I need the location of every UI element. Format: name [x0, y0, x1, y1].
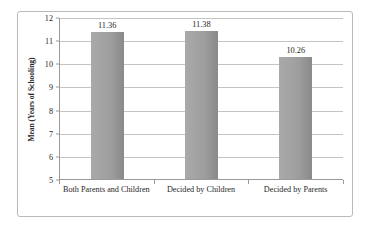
bar-slot: 11.38	[154, 18, 248, 179]
y-axis-tick-label: 6	[49, 152, 53, 161]
y-axis-title-text: Mean (Years of Schooling)	[27, 57, 36, 141]
plot-area: 11.3611.3810.26	[59, 18, 343, 180]
bar-value-label: 10.26	[286, 46, 305, 55]
bars-group: 11.3611.3810.26	[60, 18, 343, 179]
plot-wrapper: 12111098765 11.3611.3810.26 Both Parents…	[38, 18, 343, 214]
x-axis-tick-mark	[343, 180, 344, 184]
y-axis-title: Mean (Years of Schooling)	[24, 12, 38, 187]
y-axis-tick-label: 12	[45, 14, 53, 23]
x-axis-tick-label: Both Parents and Children	[59, 185, 154, 196]
x-axis-tick-mark	[154, 180, 155, 184]
y-axis-tick-labels: 12111098765	[38, 18, 56, 180]
x-axis-tick-mark	[59, 180, 60, 184]
bar-value-label: 11.38	[192, 20, 211, 29]
x-axis-tick-marks	[59, 180, 343, 184]
bar-value-label: 11.36	[98, 21, 117, 30]
x-axis-tick-mark	[248, 180, 249, 184]
x-axis-tick-label: Decided by Parents	[248, 185, 343, 196]
bar-slot: 10.26	[249, 18, 343, 179]
bar-chart-figure: Mean (Years of Schooling) 12111098765 11…	[0, 0, 370, 230]
y-axis-tick-label: 7	[49, 129, 53, 138]
y-axis-tick-label: 10	[45, 60, 53, 69]
y-axis-tick-label: 8	[49, 106, 53, 115]
bar[interactable]: 11.38	[185, 31, 218, 179]
bar[interactable]: 11.36	[91, 32, 124, 179]
y-axis-tick-label: 9	[49, 83, 53, 92]
y-axis-tick-label: 5	[49, 176, 53, 185]
bar-slot: 11.36	[60, 18, 154, 179]
bar[interactable]: 10.26	[279, 57, 312, 179]
x-axis-tick-labels: Both Parents and ChildrenDecided by Chil…	[59, 185, 343, 196]
x-axis-tick-label: Decided by Children	[154, 185, 249, 196]
y-axis-tick-label: 11	[45, 37, 53, 46]
